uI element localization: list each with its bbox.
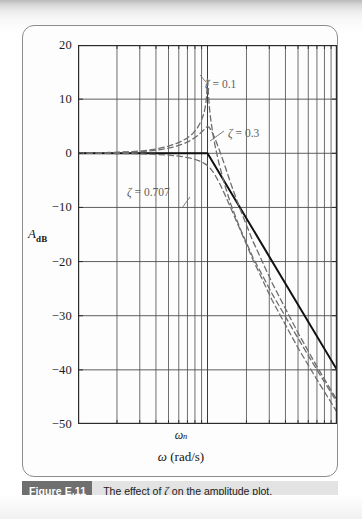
caption-post: on the amplitude plot. — [169, 485, 272, 497]
corner-frequency-label: ωn — [0, 428, 362, 443]
y-tick-label: −30 — [52, 308, 72, 323]
y-tick-label: 10 — [59, 92, 72, 107]
y-axis-title: AdB — [28, 226, 47, 244]
x-axis-units: (rad/s) — [167, 449, 204, 464]
plot-svg — [78, 45, 337, 424]
annotation-zeta-symbol: ζ — [205, 78, 213, 90]
annotation-value: = 0.3 — [236, 127, 260, 139]
y-axis-title-sub: dB — [36, 234, 47, 244]
y-tick-label: −20 — [52, 254, 72, 269]
caption-pre: The effect of — [103, 485, 164, 497]
y-axis-title-main: A — [28, 226, 36, 241]
figure-number-badge: Figure E.11 — [22, 481, 92, 500]
omega-subscript-n: n — [183, 431, 187, 441]
x-axis-title: ω (rad/s) — [0, 449, 362, 465]
figure-caption: Figure E.11 The effect of ζ on the ampli… — [22, 481, 338, 500]
page-background: 20100−10−20−30−40−50 AdB ζ = 0.1ζ = 0.3ζ… — [0, 0, 362, 519]
annotation-value: = 0.1 — [213, 78, 237, 90]
annotation-zeta-0p3: ζ = 0.3 — [228, 127, 259, 139]
annotation-zeta-0p707: ζ = 0.707 — [127, 186, 170, 198]
y-tick-label: 20 — [59, 38, 72, 53]
annotation-value: = 0.707 — [135, 186, 170, 198]
annotation-zeta-symbol: ζ — [127, 186, 135, 198]
annotation-zeta-0p1: ζ = 0.1 — [205, 78, 236, 90]
y-tick-label: −40 — [52, 362, 72, 377]
omega-symbol: ω — [175, 428, 183, 442]
x-axis-omega: ω — [158, 449, 167, 464]
y-tick-label: −10 — [52, 200, 72, 215]
bode-magnitude-plot — [78, 45, 337, 424]
figure-caption-text: The effect of ζ on the amplitude plot. — [103, 485, 272, 497]
annotation-zeta-symbol: ζ — [228, 127, 236, 139]
annotation-leader-line-2 — [182, 197, 190, 208]
x-gridlines — [117, 45, 331, 424]
y-tick-label: 0 — [66, 146, 72, 161]
